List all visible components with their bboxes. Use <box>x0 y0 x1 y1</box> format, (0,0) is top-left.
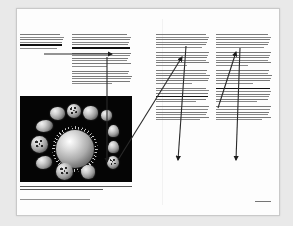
text-line <box>216 112 269 113</box>
text-line <box>156 70 207 71</box>
text-line <box>72 78 131 79</box>
text-line <box>72 71 129 72</box>
text-line <box>156 65 187 66</box>
text-column-3 <box>156 34 210 122</box>
pollen-micrograph <box>20 96 132 182</box>
text-line <box>72 34 127 35</box>
figure-description: scanning electron micrograph, false-gray… <box>0 0 1 1</box>
text-line <box>156 75 210 76</box>
pollen-grain <box>101 110 112 121</box>
pollen-grain <box>67 104 81 118</box>
text-line <box>156 83 192 84</box>
text-line <box>216 34 268 35</box>
text-line <box>156 80 208 81</box>
text-line <box>72 83 112 84</box>
text-line <box>216 44 268 45</box>
pollen-grain <box>108 141 119 153</box>
text-line <box>156 37 209 38</box>
text-line <box>216 91 271 92</box>
text-line <box>156 62 209 63</box>
text-line <box>20 42 62 43</box>
text-line <box>216 109 270 110</box>
figure-caption <box>20 186 132 192</box>
text-line <box>20 39 63 40</box>
text-line <box>72 63 131 64</box>
text-line <box>156 34 206 35</box>
text-line <box>156 60 206 61</box>
text-line <box>216 62 271 63</box>
text-line <box>216 99 268 100</box>
text-line <box>72 44 128 45</box>
text-line <box>216 119 262 120</box>
caption-line <box>20 189 103 190</box>
text-line <box>216 94 270 95</box>
highlighted-text-line <box>20 44 62 46</box>
text-line <box>216 83 253 84</box>
text-line <box>156 55 208 56</box>
text-line <box>72 81 130 82</box>
text-line <box>216 101 257 102</box>
text-line <box>72 66 107 67</box>
pollen-grain <box>36 156 52 169</box>
text-line <box>156 109 208 110</box>
pollen-grain <box>81 165 95 179</box>
text-line <box>216 117 271 118</box>
highlighted-text-line <box>156 96 208 98</box>
text-line <box>156 44 206 45</box>
text-line <box>216 52 271 53</box>
text-line <box>216 42 269 43</box>
text-line <box>156 42 207 43</box>
text-line <box>72 73 128 74</box>
page-folio <box>255 201 271 204</box>
highlighted-text-line <box>216 88 270 90</box>
text-line <box>156 39 208 40</box>
text-line <box>156 57 207 58</box>
text-line <box>20 48 57 49</box>
text-line <box>156 119 200 120</box>
pollen-grain <box>56 163 73 180</box>
text-line <box>72 39 130 40</box>
text-line <box>72 55 130 56</box>
text-line <box>216 65 248 66</box>
text-line <box>216 106 271 107</box>
text-line <box>72 58 128 59</box>
text-line <box>156 90 209 91</box>
pollen-grain <box>31 136 48 153</box>
text-line <box>156 112 207 113</box>
pollen-grain <box>36 120 53 132</box>
pollen-grain <box>107 156 119 169</box>
text-line <box>156 73 206 74</box>
pollen-grain <box>50 107 65 120</box>
text-column-4 <box>216 34 272 122</box>
highlighted-text-line <box>72 47 130 49</box>
text-line <box>216 60 268 61</box>
text-line <box>216 37 271 38</box>
text-line <box>156 52 209 53</box>
text-line <box>72 42 129 43</box>
text-line <box>20 37 64 38</box>
text-line <box>216 47 264 48</box>
text-line <box>216 78 271 79</box>
text-line <box>216 80 270 81</box>
text-line <box>156 93 208 94</box>
text-line <box>156 47 202 48</box>
figure-credit <box>20 199 100 202</box>
text-line <box>72 60 127 61</box>
text-line <box>156 78 209 79</box>
text-line <box>156 101 196 102</box>
text-line <box>216 96 269 97</box>
caption-line <box>20 186 132 187</box>
caption-line <box>20 199 90 200</box>
text-line <box>72 37 131 38</box>
text-line <box>216 75 272 76</box>
pollen-grain <box>108 125 119 137</box>
text-line <box>156 114 206 115</box>
text-line <box>216 57 269 58</box>
text-line <box>216 55 270 56</box>
text-line <box>72 53 131 54</box>
caption-line <box>255 201 271 202</box>
text-line <box>156 88 206 89</box>
text-line <box>156 106 209 107</box>
text-column-2 <box>72 34 132 86</box>
text-line <box>216 73 268 74</box>
